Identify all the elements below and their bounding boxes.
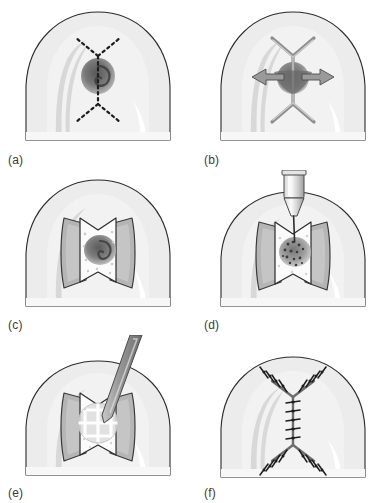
panel-d-illustration bbox=[196, 170, 391, 335]
panel-b: (b) bbox=[196, 0, 391, 170]
panel-f-illustration bbox=[196, 335, 391, 503]
panel-c-illustration bbox=[0, 170, 196, 335]
panel-b-label: (b) bbox=[204, 154, 219, 166]
panel-c: (c) bbox=[0, 170, 196, 335]
panel-a-label: (a) bbox=[8, 154, 23, 166]
panel-f-label: (f) bbox=[204, 487, 216, 499]
panel-a-illustration bbox=[0, 0, 196, 170]
panel-f: (f) bbox=[196, 335, 391, 503]
lesion-c bbox=[84, 235, 116, 265]
figure-panel-grid: (a) bbox=[0, 0, 391, 503]
panel-e-label: (e) bbox=[8, 487, 23, 499]
panel-a: (a) bbox=[0, 0, 196, 170]
panel-d: (d) bbox=[196, 170, 391, 335]
panel-b-illustration bbox=[196, 0, 391, 170]
panel-e: (e) bbox=[0, 335, 196, 503]
panel-d-label: (d) bbox=[204, 319, 219, 331]
panel-c-label: (c) bbox=[8, 319, 23, 331]
panel-e-illustration bbox=[0, 335, 196, 503]
